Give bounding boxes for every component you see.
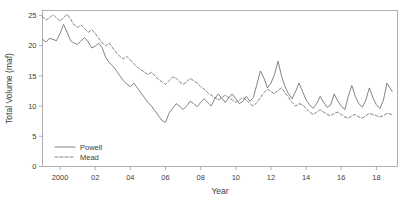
x-tick-label: 08 [196, 173, 204, 182]
x-tick-label: 04 [126, 173, 134, 182]
legend-label-powell: Powell [80, 143, 102, 152]
y-tick-label: 0 [32, 162, 36, 171]
x-tick-label: 2000 [52, 173, 69, 182]
x-tick-label: 12 [267, 173, 275, 182]
chart-container: 05101520252000020406081012141618YearTota… [0, 0, 414, 222]
y-axis-title: Total Volume (maf) [4, 53, 14, 124]
series-line-powell [43, 24, 393, 122]
y-tick-label: 25 [28, 11, 36, 20]
x-tick-label: 16 [337, 173, 345, 182]
x-tick-label: 18 [372, 173, 380, 182]
legend-label-mead: Mead [80, 153, 99, 162]
y-tick-label: 10 [28, 102, 36, 111]
x-tick-label: 02 [91, 173, 99, 182]
y-tick-label: 15 [28, 72, 36, 81]
series-line-mead [43, 14, 393, 118]
x-tick-label: 06 [161, 173, 169, 182]
x-tick-label: 14 [302, 173, 310, 182]
x-tick-label: 10 [232, 173, 240, 182]
y-tick-label: 20 [28, 41, 36, 50]
y-tick-label: 5 [32, 132, 36, 141]
x-axis-title: Year [211, 186, 228, 196]
line-chart: 05101520252000020406081012141618YearTota… [0, 0, 414, 222]
